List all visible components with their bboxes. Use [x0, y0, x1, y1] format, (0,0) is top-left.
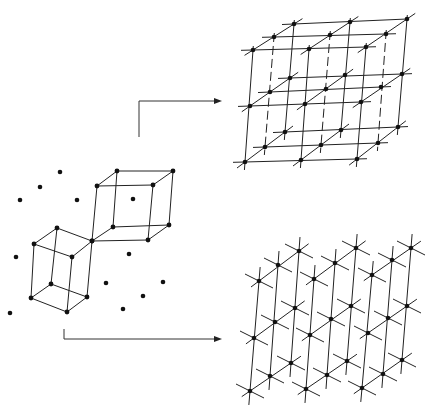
lattice-point	[366, 331, 371, 336]
lattice-point	[304, 387, 309, 392]
lattice-point	[18, 198, 23, 203]
lattice-point	[263, 145, 268, 150]
cell-edge	[97, 171, 117, 186]
lattice-point	[364, 45, 369, 50]
lattice-point	[384, 32, 389, 37]
lattice-point	[360, 386, 365, 391]
lattice-point	[333, 261, 338, 266]
lattice-point	[272, 35, 277, 40]
lattice-point	[292, 22, 297, 27]
vertical-line	[340, 18, 350, 138]
cell-edge	[153, 171, 173, 185]
lattice-point	[273, 320, 278, 325]
lattice-point	[115, 169, 120, 174]
lattice-point	[167, 223, 172, 228]
lattice-point	[251, 48, 256, 53]
vertical-line	[356, 43, 366, 167]
cell-edge	[148, 185, 153, 240]
cell-edge	[92, 227, 113, 241]
lattice-point	[354, 246, 359, 251]
lattice-point	[405, 17, 410, 22]
lattice-point	[151, 183, 156, 188]
lattice-point	[297, 249, 302, 254]
lattice-point	[319, 143, 324, 148]
bottom-lattice	[236, 234, 425, 405]
cell-edge	[67, 257, 72, 312]
upper-unit-cell	[90, 169, 176, 244]
lattice-point	[276, 263, 281, 268]
lattice-point	[379, 85, 384, 90]
lattice-point	[370, 273, 375, 278]
lattice-point	[75, 198, 80, 203]
lattice-point	[248, 389, 253, 394]
top-cubic-lattice	[233, 13, 415, 170]
lattice-point	[268, 90, 273, 95]
lattice-point	[121, 307, 126, 312]
lattice-point	[349, 304, 354, 309]
lattice-point	[381, 372, 386, 377]
lattice-point	[329, 317, 334, 322]
lattice-point	[252, 336, 257, 341]
lattice-point	[348, 20, 353, 25]
lattice-point	[325, 373, 330, 378]
lattice-point	[289, 361, 294, 366]
lattice-point	[409, 246, 414, 251]
lattice-point	[8, 311, 13, 316]
cell-edge	[148, 225, 169, 240]
lattice-point	[303, 102, 308, 107]
lattice-point	[90, 239, 95, 244]
lattice-point	[288, 76, 293, 81]
vertical-line	[377, 30, 386, 151]
lattice-point	[307, 47, 312, 52]
lattice-point	[127, 252, 132, 257]
lattice-point	[131, 197, 136, 202]
lattice-diagram	[0, 0, 435, 412]
cell-edge	[31, 298, 67, 312]
cell-edge	[92, 186, 97, 241]
arrowhead-icon	[214, 336, 222, 342]
lattice-point	[58, 170, 63, 175]
lattice-point	[49, 282, 54, 287]
lattice-point	[355, 157, 360, 162]
lattice-point	[161, 280, 166, 285]
arrows	[64, 98, 222, 342]
lattice-point	[248, 104, 253, 109]
lattice-point	[283, 130, 288, 135]
cell-edge	[51, 228, 57, 284]
lattice-point	[299, 158, 304, 163]
lattice-point	[339, 128, 344, 133]
lattice-point	[70, 255, 75, 260]
lattice-point	[308, 333, 313, 338]
lattice-point	[268, 374, 273, 379]
cell-edge	[113, 171, 117, 227]
cell-edge	[57, 228, 92, 241]
lower-unit-cell	[29, 226, 95, 315]
lattice-point	[386, 316, 391, 321]
lattice-point	[359, 100, 364, 105]
lattice-point	[146, 238, 151, 243]
cell-edge	[67, 297, 87, 312]
arrowhead-icon	[214, 98, 222, 104]
lattice-point	[32, 242, 37, 247]
lattice-point	[95, 184, 100, 189]
lattice-point	[396, 125, 401, 130]
lattice-point	[400, 358, 405, 363]
lattice-point	[312, 277, 317, 282]
lattice-point	[343, 73, 348, 78]
arrow-to-bottom-lattice	[64, 329, 216, 339]
lattice-point	[293, 306, 298, 311]
cell-edge	[31, 284, 51, 298]
lattice-point	[400, 72, 405, 77]
lattice-point	[328, 33, 333, 38]
lattice-point	[257, 279, 262, 284]
lattice-point	[104, 281, 109, 286]
cell-edge	[87, 241, 92, 297]
cell-edge	[72, 241, 92, 257]
lattice-point	[14, 255, 19, 260]
arrow-to-top-lattice	[139, 101, 216, 137]
cell-edge	[31, 244, 34, 298]
lattice-point	[55, 226, 60, 231]
cell-edge	[34, 228, 57, 244]
lattice-point	[243, 160, 248, 165]
diagram-canvas	[0, 0, 435, 412]
